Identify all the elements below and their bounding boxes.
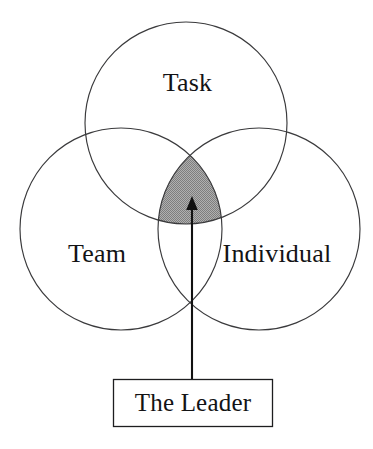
- label-task: Task: [1, 70, 373, 96]
- venn-diagram: Task Team Individual The Leader: [0, 0, 373, 449]
- label-individual: Individual: [192, 241, 362, 267]
- label-team: Team: [2, 241, 192, 267]
- label-the-leader: The Leader: [113, 390, 273, 415]
